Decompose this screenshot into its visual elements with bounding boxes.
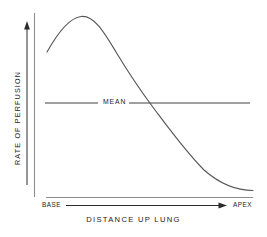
x-axis-title: DISTANCE UP LUNG [0,216,267,224]
x-axis-arrowhead-icon [219,203,228,209]
perfusion-curve [47,16,253,190]
x-axis-start-label-base: BASE [42,202,61,208]
y-axis-arrowhead-icon [24,21,30,30]
y-axis-title: RATE OF PERFUSION [14,71,21,165]
x-axis-end-label-apex: APEX [233,202,252,208]
mean-line-label: MEAN [100,99,129,106]
chart-canvas [0,0,267,237]
perfusion-chart-figure: RATE OF PERFUSION MEAN BASE APEX DISTANC… [0,0,267,237]
